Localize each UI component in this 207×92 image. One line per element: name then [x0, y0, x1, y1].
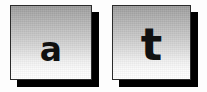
letter-tiles-canvas: a t	[0, 0, 207, 92]
letter-tile-a[interactable]: a	[10, 5, 92, 80]
tile-t-face[interactable]: t	[112, 5, 191, 80]
tile-t-letter: t	[113, 22, 190, 67]
tile-a-letter: a	[11, 33, 91, 66]
letter-tile-t[interactable]: t	[112, 5, 191, 80]
tile-a-face[interactable]: a	[10, 5, 92, 80]
